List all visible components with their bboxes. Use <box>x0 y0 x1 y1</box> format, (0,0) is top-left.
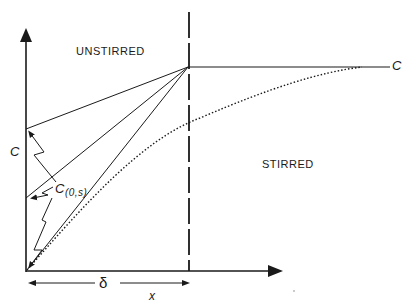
unstirred-region-label: UNSTIRRED <box>76 45 145 57</box>
x-axis-arrow-icon <box>268 265 283 277</box>
y-axis <box>20 28 32 272</box>
distance-axis-label: x <box>149 289 156 303</box>
stirred-region-label: STIRRED <box>262 158 314 170</box>
bulk-concentration-label: C <box>392 58 402 73</box>
speck <box>293 290 295 292</box>
delta-label: δ <box>99 274 108 291</box>
diffusion-layer-diagram <box>0 0 409 308</box>
x-axis <box>26 265 283 277</box>
y-axis-arrow-icon <box>20 28 32 42</box>
concentration-axis-label: C <box>10 144 20 159</box>
concentration-gradient-lines <box>26 67 188 270</box>
delta-thickness-arrow <box>28 280 190 286</box>
surface-concentration-label: C(0,s) <box>55 181 87 196</box>
surface-concentration-pointers <box>30 133 56 266</box>
